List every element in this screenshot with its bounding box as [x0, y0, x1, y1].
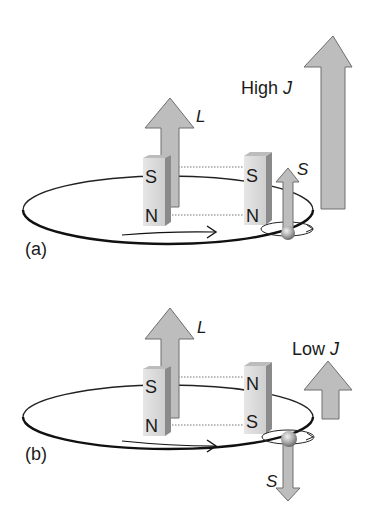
right-magnet-a: S N	[244, 152, 272, 226]
panel-a: L S N S N S High J (a)	[23, 36, 352, 259]
electron-ball	[281, 431, 297, 447]
orbit-direction-arrow-a	[122, 226, 216, 238]
right-magnet-top-pole-b: N	[246, 374, 259, 394]
panel-label-b: (b)	[25, 444, 47, 464]
high-j-arrow	[304, 36, 352, 209]
left-magnet-b: S N	[143, 366, 171, 436]
right-magnet-bottom-pole-b: S	[246, 412, 258, 432]
left-magnet-top-pole-b: S	[145, 377, 157, 397]
right-magnet-top-pole-a: S	[246, 166, 258, 186]
left-magnet-a: S N	[143, 155, 171, 226]
panel-label-a: (a)	[25, 239, 47, 259]
left-magnet-top-pole-a: S	[145, 167, 157, 187]
spin-arrow-down-icon	[276, 441, 300, 501]
orbital-vector-label-a: L	[196, 107, 205, 126]
panel-b: L S N N S S Low J (b)	[23, 308, 352, 501]
orbital-vector-label-b: L	[197, 318, 206, 337]
spin-orbit-diagram: L S N S N S High J (a)	[0, 0, 379, 520]
spin-arrow-up-icon	[276, 168, 299, 229]
electron-ball	[281, 226, 295, 240]
total-j-label-a: High J	[241, 78, 293, 98]
right-magnet-bottom-pole-a: N	[246, 206, 259, 226]
orbit-direction-arrow-b	[122, 440, 216, 452]
spin-vector-label-a: S	[297, 160, 309, 179]
left-magnet-bottom-pole-a: N	[145, 206, 158, 226]
right-magnet-b: N S	[244, 362, 272, 434]
left-magnet-bottom-pole-b: N	[145, 416, 158, 436]
low-j-arrow	[304, 361, 352, 419]
total-j-label-b: Low J	[292, 339, 340, 359]
spin-vector-label-b: S	[266, 472, 278, 491]
